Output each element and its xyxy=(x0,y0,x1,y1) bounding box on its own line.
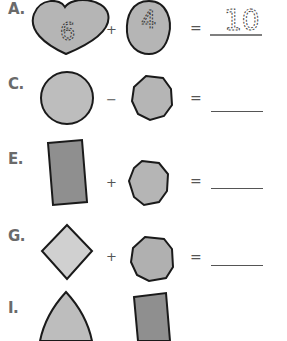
octagon-shape-icon xyxy=(129,235,179,285)
circle-shape-icon xyxy=(40,70,100,130)
answer-field[interactable]: 10 xyxy=(210,2,270,42)
right-value: 4 xyxy=(141,6,156,34)
operator: − xyxy=(106,92,117,107)
problem-i: I. xyxy=(0,285,287,333)
oval-shape-icon: 4 xyxy=(124,0,174,60)
operator: + xyxy=(106,249,117,264)
octagon-shape-icon xyxy=(130,75,180,125)
left-value: 6 xyxy=(60,18,75,46)
problem-g: G. + = xyxy=(0,215,287,285)
triangle-shape-icon xyxy=(36,291,96,341)
equals-sign: = xyxy=(190,249,202,265)
operator: + xyxy=(106,22,117,37)
problem-label: A. xyxy=(8,0,25,18)
equals-sign: = xyxy=(190,20,202,36)
operator: + xyxy=(106,175,117,190)
answer-field[interactable] xyxy=(211,265,263,266)
equals-sign: = xyxy=(190,90,202,106)
svg-text:10: 10 xyxy=(224,4,260,37)
rectangle-shape-icon xyxy=(46,139,96,209)
problem-a: A. 6 + 4 = 10 xyxy=(0,0,287,60)
answer-field[interactable] xyxy=(211,188,263,189)
problem-label: G. xyxy=(8,227,25,245)
diamond-shape-icon xyxy=(40,223,100,283)
problem-label: I. xyxy=(8,299,18,317)
heart-shape-icon: 6 xyxy=(32,0,112,60)
answer-field[interactable] xyxy=(211,111,263,112)
problem-c: C. − = xyxy=(0,60,287,135)
octagon-shape-icon xyxy=(127,160,177,210)
equals-sign: = xyxy=(190,173,202,189)
rectangle-shape-icon xyxy=(132,291,182,341)
problem-e: E. + = xyxy=(0,135,287,215)
problem-label: E. xyxy=(8,150,23,168)
problem-label: C. xyxy=(8,75,24,93)
